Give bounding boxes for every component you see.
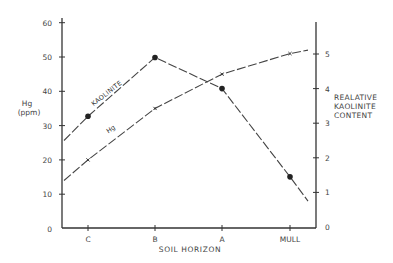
y2-tick-label: 1 xyxy=(325,188,330,197)
dot-marker xyxy=(152,55,158,61)
y-axis-title: Hg xyxy=(22,99,33,108)
y-tick-label: 0 xyxy=(47,225,52,234)
dot-marker xyxy=(85,113,91,119)
series-line-kaolinite xyxy=(64,57,308,201)
y2-tick-label: 5 xyxy=(325,50,330,59)
series-label-hg: Hg xyxy=(105,124,117,136)
x-tick-label: B xyxy=(152,235,157,244)
x-marker xyxy=(86,158,89,161)
series-line-hg xyxy=(64,50,308,180)
y-tick-label: 30 xyxy=(42,122,52,131)
chart-canvas: 0102030405060012345CBAMULLSOIL HORIZONHg… xyxy=(0,0,393,263)
y2-tick-label: 2 xyxy=(325,154,330,163)
y-tick-label: 60 xyxy=(42,19,52,28)
x-tick-label: MULL xyxy=(280,235,301,244)
y-tick-label: 50 xyxy=(42,53,52,62)
y2-tick-label: 4 xyxy=(325,85,330,94)
y-tick-label: 40 xyxy=(42,87,52,96)
y2-axis-title: KAOLINITE xyxy=(334,102,376,111)
chart: 0102030405060012345CBAMULLSOIL HORIZONHg… xyxy=(0,0,393,263)
y-tick-label: 20 xyxy=(42,156,52,165)
y2-axis-title: REALATIVE xyxy=(334,93,377,102)
series-label-kaolinite: KAOLINITE xyxy=(90,79,124,108)
y-tick-label: 10 xyxy=(42,190,52,199)
y2-axis-title: CONTENT xyxy=(334,111,372,120)
x-tick-label: A xyxy=(219,235,225,244)
x-axis-title: SOIL HORIZON xyxy=(159,245,221,254)
y2-tick-label: 3 xyxy=(325,119,330,128)
dot-marker xyxy=(219,86,225,92)
x-tick-label: C xyxy=(85,235,90,244)
dot-marker xyxy=(287,174,293,180)
y-axis-unit: (ppm) xyxy=(18,108,41,117)
y2-tick-label: 0 xyxy=(325,223,330,232)
